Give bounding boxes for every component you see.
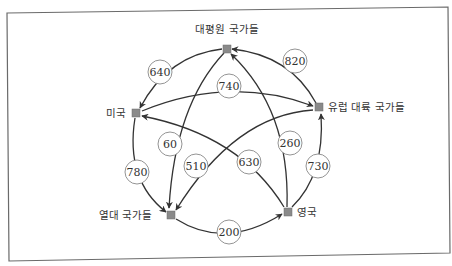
node-uk bbox=[284, 208, 292, 216]
node-label-uk: 영국 bbox=[297, 206, 317, 218]
node-label-pacific: 대평원 국가들 bbox=[195, 23, 258, 35]
edge-label-value: 60 bbox=[163, 138, 177, 151]
node-pacific bbox=[223, 45, 231, 53]
edge-label-value: 740 bbox=[219, 80, 240, 93]
node-us bbox=[132, 109, 140, 117]
node-label-tropical: 열대 국가들 bbox=[99, 209, 152, 221]
edge-label-value: 260 bbox=[280, 137, 301, 150]
edge-label-value: 200 bbox=[219, 226, 240, 239]
edge-label-value: 630 bbox=[239, 156, 260, 169]
node-label-us: 미국 bbox=[106, 107, 126, 119]
edge-label-value: 510 bbox=[186, 160, 207, 173]
flow-diagram: 64082074060510630260730780200 대평원 국가들유럽 … bbox=[0, 0, 452, 266]
edge-label-value: 820 bbox=[285, 55, 306, 68]
edge-label-value: 780 bbox=[127, 166, 148, 179]
edge-uk-to-pacific bbox=[231, 54, 287, 207]
edge-label-value: 730 bbox=[308, 160, 329, 173]
node-europe bbox=[315, 103, 323, 111]
node-tropical bbox=[167, 211, 175, 219]
node-label-europe: 유럽 대륙 국가들 bbox=[328, 101, 405, 113]
edge-pacific-to-tropical bbox=[169, 53, 224, 208]
edge-label-value: 640 bbox=[150, 66, 171, 79]
